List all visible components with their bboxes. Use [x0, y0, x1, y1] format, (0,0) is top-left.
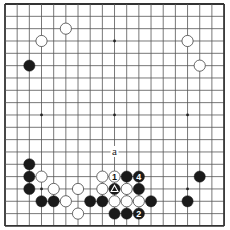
- black-stone: [97, 196, 108, 207]
- black-stone: [121, 208, 132, 219]
- stone-body: [72, 183, 83, 194]
- stone-body: [85, 196, 96, 207]
- black-stone: [36, 196, 47, 207]
- stone-body: [60, 23, 71, 34]
- stone-body: [133, 196, 144, 207]
- stone-body: [133, 183, 144, 194]
- move-number: 2: [136, 209, 141, 219]
- stone-body: [182, 35, 193, 46]
- white-stone: [109, 196, 120, 207]
- black-stone: [48, 196, 59, 207]
- go-board: a 142: [0, 0, 230, 230]
- stone-body: [24, 183, 35, 194]
- star-point: [186, 188, 189, 191]
- black-stone: [24, 60, 35, 71]
- stone-body: [36, 35, 47, 46]
- stone-body: [121, 171, 132, 182]
- stone-body: [194, 60, 205, 71]
- white-stone: 1: [109, 171, 120, 182]
- white-stone: [36, 35, 47, 46]
- white-stone: [60, 23, 71, 34]
- stone-body: [36, 196, 47, 207]
- board-annotations: a: [111, 145, 119, 157]
- stone-body: [97, 196, 108, 207]
- star-point: [113, 40, 116, 43]
- white-stone: [121, 196, 132, 207]
- stone-body: [24, 159, 35, 170]
- white-stone: [194, 60, 205, 71]
- stone-body: [97, 183, 108, 194]
- go-board-diagram: a 142: [0, 0, 230, 230]
- stone-body: [109, 196, 120, 207]
- star-point: [40, 188, 43, 191]
- stone-body: [182, 196, 193, 207]
- white-stone: [72, 183, 83, 194]
- black-stone: [24, 171, 35, 182]
- white-stone: [182, 35, 193, 46]
- black-stone: [145, 196, 156, 207]
- stone-body: [145, 196, 156, 207]
- stone-body: [36, 171, 47, 182]
- stone-body: [194, 171, 205, 182]
- black-stone: 4: [133, 171, 144, 182]
- move-number: 1: [112, 172, 117, 182]
- white-stone: [36, 171, 47, 182]
- white-stone: [97, 171, 108, 182]
- move-number: 4: [136, 172, 141, 182]
- stone-body: [121, 196, 132, 207]
- black-stone: [121, 171, 132, 182]
- black-stone: [85, 196, 96, 207]
- black-stone: 2: [133, 208, 144, 219]
- white-stone: [48, 183, 59, 194]
- black-stone: [109, 183, 120, 194]
- stone-body: [109, 208, 120, 219]
- stone-body: [72, 208, 83, 219]
- black-stone: [182, 196, 193, 207]
- stone-body: [60, 196, 71, 207]
- white-stone: [60, 196, 71, 207]
- star-point: [40, 114, 43, 117]
- black-stone: [194, 171, 205, 182]
- stone-body: [24, 60, 35, 71]
- white-stone: [72, 208, 83, 219]
- black-stone: [109, 208, 120, 219]
- white-stone: [121, 183, 132, 194]
- black-stone: [24, 183, 35, 194]
- stone-body: [121, 183, 132, 194]
- stone-body: [48, 183, 59, 194]
- stone-body: [24, 171, 35, 182]
- point-label-a: a: [112, 145, 117, 157]
- star-point: [186, 114, 189, 117]
- black-stone: [133, 183, 144, 194]
- stone-body: [97, 171, 108, 182]
- stone-body: [48, 196, 59, 207]
- star-point: [113, 114, 116, 117]
- black-stone: [24, 159, 35, 170]
- white-stone: [97, 183, 108, 194]
- white-stone: [133, 196, 144, 207]
- stone-body: [121, 208, 132, 219]
